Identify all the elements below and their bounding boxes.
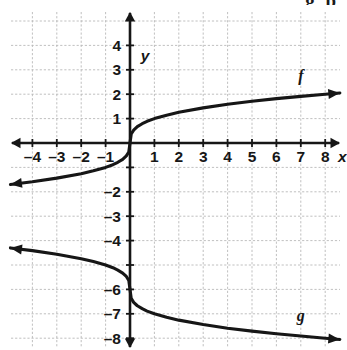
x-tick-label-6: 3	[199, 148, 208, 165]
y-tick-label-9: –8	[104, 330, 122, 347]
x-tick-label-0: –4	[24, 148, 42, 165]
curve-g	[10, 248, 339, 340]
y-tick-label-4: –2	[104, 183, 121, 200]
x-tick-label-1: –3	[48, 148, 66, 165]
y-axis-arrow-down	[125, 339, 135, 349]
partial-header-text: g p	[305, 0, 339, 5]
y-tick-label-0: 4	[112, 37, 121, 54]
y-axis-arrow-up	[125, 12, 135, 22]
x-tick-label-8: 5	[248, 148, 257, 165]
axes	[11, 12, 340, 348]
x-tick-label-10: 7	[296, 148, 305, 165]
coordinate-plane-figure: g p –4–3–2–1123456784321–2–3–4–6–7–8xyfg	[0, 0, 347, 350]
y-tick-label-3: 1	[112, 110, 121, 127]
tick-marks	[32, 45, 325, 338]
y-tick-label-1: 3	[112, 61, 121, 78]
x-axis-label: x	[337, 148, 347, 165]
x-axis-arrow-left	[11, 138, 21, 148]
x-tick-label-3: –1	[97, 148, 115, 165]
x-axis-arrow-right	[331, 138, 341, 148]
x-tick-label-9: 6	[272, 148, 281, 165]
curve-label-g: g	[296, 307, 305, 325]
x-tick-label-5: 2	[174, 148, 183, 165]
y-tick-label-6: –4	[104, 232, 122, 249]
x-tick-label-4: 1	[150, 148, 159, 165]
y-axis-label: y	[140, 47, 151, 64]
y-tick-label-2: 2	[112, 86, 121, 103]
y-tick-label-8: –7	[104, 305, 121, 322]
grid-lines	[11, 12, 340, 348]
y-tick-label-5: –3	[104, 208, 122, 225]
x-tick-label-2: –2	[73, 148, 90, 165]
y-tick-label-7: –6	[104, 281, 122, 298]
x-tick-label-11: 8	[321, 148, 330, 165]
x-tick-label-7: 4	[223, 148, 232, 165]
graph-canvas: –4–3–2–1123456784321–2–3–4–6–7–8xyfg	[0, 0, 347, 350]
curve-f	[10, 93, 339, 184]
